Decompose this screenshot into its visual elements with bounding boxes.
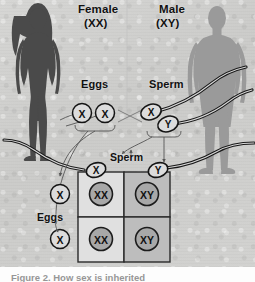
svg-text:X: X [56,189,63,201]
label-female: Female [78,3,118,15]
offspring-0-0: XX [90,183,113,206]
label-sperm-top: Sperm [149,78,184,90]
offspring-1-1: XY [136,228,159,251]
male-silhouette [188,6,247,174]
label-female-genotype: (XX) [84,17,107,29]
svg-text:Y: Y [155,165,162,176]
svg-text:XX: XX [94,234,108,246]
diagram-artwork: X X X Y XX [0,0,255,267]
egg-top-2: X [96,104,115,123]
figure-caption: Figure 2. How sex is inherited [11,272,145,282]
punnett-egg-1: X [51,185,70,204]
svg-text:X: X [78,108,85,120]
egg-top-1: X [73,104,92,123]
svg-text:Y: Y [165,119,172,130]
sperm-top-y: Y [156,113,181,134]
sperm-top-x: X [139,101,164,122]
label-sperm-punnett: Sperm [110,151,143,163]
svg-text:X: X [93,165,100,176]
label-male-genotype: (XY) [156,17,179,29]
svg-text:X: X [101,108,108,120]
offspring-0-1: XY [136,183,159,206]
label-eggs-top: Eggs [81,78,108,90]
figure-container: X X X Y XX [0,0,255,282]
svg-text:X: X [56,234,63,246]
label-male: Male [159,3,185,15]
female-silhouette [12,3,61,161]
caption-band: Figure 2. How sex is inherited [0,267,255,282]
svg-text:X: X [148,107,155,118]
punnett-egg-2: X [51,230,70,249]
svg-text:XX: XX [94,189,108,201]
svg-text:XY: XY [140,234,154,246]
label-eggs-punnett: Eggs [37,211,63,223]
offspring-1-0: XX [90,228,113,251]
svg-text:XY: XY [140,189,154,201]
